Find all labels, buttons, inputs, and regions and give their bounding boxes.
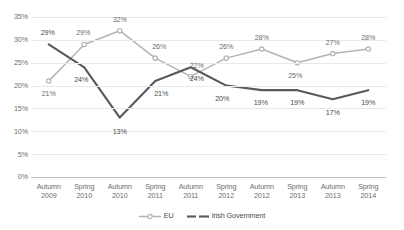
x-axis-tick-label: Spring2010 xyxy=(74,182,94,200)
plot-area: 21%29%32%26%22%26%28%25%27%28%29%24%13%2… xyxy=(31,17,386,177)
y-axis-tick-label: 5% xyxy=(2,151,28,158)
x-axis: Autumn2009Spring2010Autumn2010Spring2011… xyxy=(31,180,386,206)
data-label: 21% xyxy=(154,90,168,97)
legend-dash-icon xyxy=(187,212,209,221)
y-axis-tick-label: 35% xyxy=(2,13,28,20)
data-label: 20% xyxy=(215,95,229,102)
chart-legend: EUIrish Government xyxy=(0,208,404,224)
x-axis-tick-label: Autumn2009 xyxy=(37,182,61,200)
gridline xyxy=(31,63,386,64)
data-label: 29% xyxy=(41,29,55,36)
data-label: 19% xyxy=(254,99,268,106)
legend-label: EU xyxy=(164,212,174,219)
data-label: 25% xyxy=(288,72,302,79)
data-point-marker xyxy=(366,47,370,51)
gridline xyxy=(31,86,386,87)
data-label: 27% xyxy=(326,39,340,46)
x-axis-tick-label: Autumn2013 xyxy=(321,182,345,200)
y-axis-tick-label: 0% xyxy=(2,173,28,180)
y-axis-tick-label: 10% xyxy=(2,128,28,135)
data-label: 19% xyxy=(290,99,304,106)
x-axis-tick-label: Spring2014 xyxy=(358,182,378,200)
line-chart: 0%5%10%15%20%25%30%35% 21%29%32%26%22%26… xyxy=(0,0,404,230)
data-label: 17% xyxy=(326,109,340,116)
x-axis-tick-label: Spring2013 xyxy=(287,182,307,200)
data-label: 13% xyxy=(113,128,127,135)
data-point-marker xyxy=(224,56,228,60)
data-label: 28% xyxy=(255,34,269,41)
data-label: 32% xyxy=(113,16,127,23)
x-axis-tick-label: Autumn2012 xyxy=(250,182,274,200)
x-axis-tick-label: Autumn2010 xyxy=(108,182,132,200)
data-point-marker xyxy=(82,42,86,46)
data-point-marker xyxy=(47,79,51,83)
x-axis-line xyxy=(31,177,386,178)
x-axis-tick-label: Autumn2011 xyxy=(179,182,203,200)
y-axis-tick-label: 20% xyxy=(2,82,28,89)
y-axis-tick-label: 15% xyxy=(2,105,28,112)
legend-label: Irish Government xyxy=(212,212,266,219)
data-label: 24% xyxy=(74,76,88,83)
data-point-marker xyxy=(153,56,157,60)
data-label: 22% xyxy=(190,62,204,69)
x-axis-tick-label: Spring2011 xyxy=(145,182,165,200)
legend-item-irish-government[interactable]: Irish Government xyxy=(187,212,266,221)
data-point-marker xyxy=(260,47,264,51)
data-point-marker xyxy=(331,51,335,55)
data-label: 26% xyxy=(219,43,233,50)
gridline xyxy=(31,17,386,18)
series-line-eu xyxy=(49,31,369,81)
y-axis-tick-label: 30% xyxy=(2,36,28,43)
y-axis: 0%5%10%15%20%25%30%35% xyxy=(0,17,28,177)
x-axis-tick-label: Spring2012 xyxy=(216,182,236,200)
series-line-irish-government xyxy=(49,44,369,117)
gridline xyxy=(31,154,386,155)
legend-line-marker-icon xyxy=(139,212,161,221)
data-label: 28% xyxy=(361,34,375,41)
data-label: 19% xyxy=(361,99,375,106)
data-label: 26% xyxy=(152,43,166,50)
gridline xyxy=(31,131,386,132)
data-label: 24% xyxy=(190,75,204,82)
data-label: 21% xyxy=(42,90,56,97)
data-label: 29% xyxy=(76,29,90,36)
legend-item-eu[interactable]: EU xyxy=(139,212,174,221)
y-axis-tick-label: 25% xyxy=(2,59,28,66)
data-point-marker xyxy=(118,29,122,33)
